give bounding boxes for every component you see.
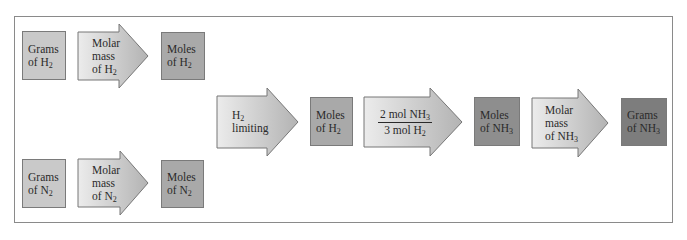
- h2-limiting-arrow: H2 limiting: [217, 88, 299, 157]
- moles-n2-box: Moles of N2: [161, 160, 204, 208]
- mole-ratio-fraction: 2 mol NH3 3 mol H2: [378, 108, 432, 137]
- moles-h2-box-main: Moles of H2: [310, 97, 353, 146]
- molar-mass-nh3-arrow: Molar mass of NH3: [532, 89, 609, 158]
- mole-ratio-arrow: 2 mol NH3 3 mol H2: [364, 88, 463, 157]
- molar-mass-h2-arrow: Molar mass of H2: [78, 24, 149, 89]
- molar-mass-n2-arrow: Molar mass of N2: [78, 151, 149, 216]
- moles-h2-box-top: Moles of H2: [161, 32, 205, 80]
- grams-h2-box: Grams of H2: [22, 31, 66, 80]
- grams-nh3-box: Grams of NH3: [621, 98, 667, 146]
- grams-n2-box: Grams of N2: [22, 159, 66, 208]
- moles-nh3-box: Moles of NH3: [474, 97, 520, 146]
